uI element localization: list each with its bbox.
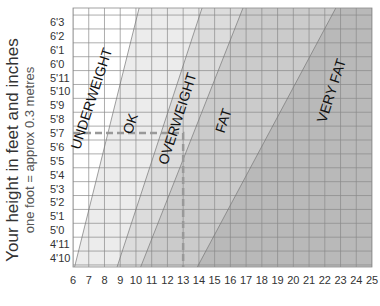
x-tick-label: 13 — [177, 274, 189, 286]
x-tick-label: 9 — [117, 274, 123, 286]
y-tick-label: 5'0 — [50, 224, 64, 236]
x-tick-label: 15 — [209, 274, 221, 286]
y-axis-title-main: Your height in feet and inches — [3, 38, 22, 261]
y-axis-subtitle: one foot = approx 0.3 metres — [22, 66, 37, 233]
x-tick-label: 23 — [334, 274, 346, 286]
y-tick-label: 5'3 — [50, 183, 64, 195]
x-axis-ticks: 678910111213141516171819202122232425 — [70, 274, 378, 286]
y-tick-label: 6'1 — [50, 44, 64, 56]
y-tick-label: 5'1 — [50, 210, 64, 222]
y-axis-ticks: 4'104'115'05'15'25'35'45'55'65'75'85'95'… — [50, 16, 70, 264]
y-tick-label: 5'7 — [50, 127, 64, 139]
x-tick-label: 14 — [193, 274, 205, 286]
y-tick-label: 5'5 — [50, 155, 64, 167]
y-tick-label: 5'4 — [50, 169, 64, 181]
y-tick-label: 6'2 — [50, 30, 64, 42]
y-tick-label: 5'11 — [50, 72, 70, 84]
y-axis-title: Your height in feet and inchesone foot =… — [3, 38, 37, 261]
y-tick-label: 4'11 — [50, 238, 70, 250]
x-tick-label: 20 — [287, 274, 299, 286]
y-tick-label: 6'0 — [50, 58, 64, 70]
y-tick-label: 6'3 — [50, 16, 64, 28]
x-tick-label: 24 — [350, 274, 362, 286]
y-tick-label: 5'2 — [50, 196, 64, 208]
x-tick-label: 12 — [161, 274, 173, 286]
y-tick-label: 5'8 — [50, 113, 64, 125]
bmi-height-weight-chart: Your height in feet and inchesone foot =… — [0, 0, 380, 306]
x-tick-label: 21 — [303, 274, 315, 286]
x-tick-label: 6 — [70, 274, 76, 286]
y-tick-label: 5'10 — [50, 85, 70, 97]
x-tick-label: 22 — [319, 274, 331, 286]
y-tick-label: 5'6 — [50, 141, 64, 153]
x-tick-label: 25 — [366, 274, 378, 286]
x-tick-label: 10 — [130, 274, 142, 286]
y-tick-label: 5'9 — [50, 99, 64, 111]
x-tick-label: 18 — [256, 274, 268, 286]
x-tick-label: 16 — [224, 274, 236, 286]
x-tick-label: 19 — [271, 274, 283, 286]
x-tick-label: 8 — [101, 274, 107, 286]
x-tick-label: 7 — [86, 274, 92, 286]
y-tick-label: 4'10 — [50, 252, 70, 264]
x-tick-label: 11 — [146, 274, 157, 286]
x-tick-label: 17 — [240, 274, 252, 286]
plot-area: UNDERWEIGHTOKOVERWEIGHTFATVERY FAT — [67, 8, 377, 267]
